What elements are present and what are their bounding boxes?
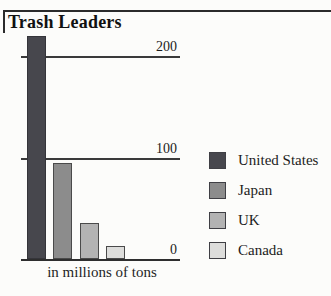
legend-item-japan: Japan (209, 182, 318, 199)
legend-swatch-icon (209, 242, 226, 259)
legend-label: Japan (238, 182, 272, 199)
chart-card: Trash Leaders 0100200 in millions of ton… (0, 0, 331, 296)
y-tick-label-100: 100 (120, 141, 177, 156)
legend-item-uk: UK (209, 212, 318, 229)
legend: United StatesJapanUKCanada (209, 152, 318, 259)
y-tick-label-200: 200 (120, 39, 177, 54)
bar-uk (80, 223, 99, 259)
bar-japan (53, 163, 72, 259)
bar-canada (106, 246, 125, 259)
y-tick-label-0: 0 (120, 242, 177, 257)
legend-swatch-icon (209, 152, 226, 169)
legend-item-united-states: United States (209, 152, 318, 169)
legend-label: United States (238, 152, 318, 169)
legend-item-canada: Canada (209, 242, 318, 259)
legend-swatch-icon (209, 212, 226, 229)
legend-swatch-icon (209, 182, 226, 199)
bar-united-states (27, 36, 46, 259)
units-label: in millions of tons (22, 264, 182, 281)
legend-label: Canada (238, 242, 283, 259)
legend-label: UK (238, 212, 260, 229)
x-axis-line (21, 259, 180, 261)
